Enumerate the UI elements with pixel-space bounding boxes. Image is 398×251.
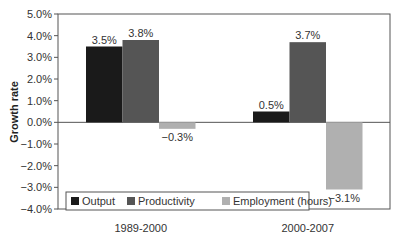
bar — [326, 122, 363, 189]
data-label: −3.1% — [329, 192, 361, 204]
y-tick-label: −3.0% — [21, 181, 53, 193]
data-label: 3.5% — [92, 34, 117, 46]
y-tick-label: −2.0% — [21, 160, 53, 172]
y-tick-label: −1.0% — [21, 138, 53, 150]
legend-swatch — [222, 197, 230, 205]
legend-label: Employment (hours) — [233, 195, 332, 207]
x-tick-label: 2000-2007 — [281, 222, 334, 234]
data-label: 0.5% — [259, 99, 284, 111]
bar — [159, 122, 196, 129]
y-tick-label: 1.0% — [27, 95, 52, 107]
bar-chart: Growth rate 5.0%4.0%3.0%2.0%1.0%0.0%−1.0… — [0, 0, 398, 251]
bar — [290, 42, 327, 122]
legend-label: Output — [82, 195, 115, 207]
x-axis-labels: 1989-20002000-2007 — [114, 222, 334, 234]
legend-swatch — [127, 197, 135, 205]
svg-text:Growth rate: Growth rate — [8, 81, 20, 143]
legend: OutputProductivityEmployment (hours) — [66, 192, 332, 210]
y-axis-ticks: 5.0%4.0%3.0%2.0%1.0%0.0%−1.0%−2.0%−3.0%−… — [21, 8, 59, 215]
y-tick-label: 5.0% — [27, 8, 52, 20]
x-tick-label: 1989-2000 — [114, 222, 167, 234]
y-tick-label: 0.0% — [27, 116, 52, 128]
data-label: 3.7% — [295, 29, 320, 41]
y-tick-label: 2.0% — [27, 73, 52, 85]
y-axis-label: Growth rate — [8, 81, 20, 143]
data-label: 3.8% — [128, 27, 153, 39]
bars: 3.5%3.8%−0.3%0.5%3.7%−3.1% — [86, 27, 363, 204]
legend-label: Productivity — [138, 195, 195, 207]
data-label: −0.3% — [162, 131, 194, 143]
y-tick-label: 4.0% — [27, 30, 52, 42]
bar — [123, 40, 160, 122]
y-tick-label: 3.0% — [27, 51, 52, 63]
legend-swatch — [71, 197, 79, 205]
bar — [86, 47, 123, 123]
bar — [253, 112, 290, 123]
y-tick-label: −4.0% — [21, 203, 53, 215]
